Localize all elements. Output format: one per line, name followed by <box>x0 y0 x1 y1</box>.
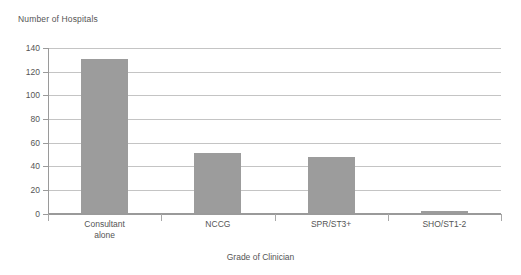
x-axis-category-label: Consultant alone <box>48 219 161 240</box>
bar <box>194 153 241 213</box>
x-axis-category-label: SPR/ST3+ <box>275 219 388 230</box>
y-axis-tick-label: 20 <box>31 185 40 195</box>
x-axis-category-label: NCCG <box>161 219 274 230</box>
y-axis-tick-label: 80 <box>31 114 40 124</box>
y-axis-tick-label: 60 <box>31 138 40 148</box>
y-axis-tick <box>43 143 48 144</box>
plot-area <box>48 48 501 214</box>
y-axis-tick-label: 40 <box>31 161 40 171</box>
y-axis-tick <box>43 190 48 191</box>
gridline <box>48 48 501 49</box>
y-axis-tick <box>43 166 48 167</box>
y-axis-tick <box>43 72 48 73</box>
bar <box>81 59 128 214</box>
y-axis-tick-label: 120 <box>26 67 40 77</box>
y-axis-tick-label: 0 <box>35 209 40 219</box>
bar-chart: Number of Hospitals 020406080100120140 C… <box>0 0 521 275</box>
y-axis-tick <box>43 119 48 120</box>
x-axis-title: Grade of Clinician <box>0 252 521 262</box>
y-axis-tick-label: 140 <box>26 43 40 53</box>
bar <box>308 157 355 214</box>
x-axis-separator-tick <box>501 214 502 221</box>
y-axis-tick <box>43 48 48 49</box>
y-axis-tick-label: 100 <box>26 90 40 100</box>
y-axis-line <box>48 48 49 214</box>
x-axis-category-label: SHO/ST1-2 <box>388 219 501 230</box>
y-axis-tick <box>43 95 48 96</box>
y-axis-title: Number of Hospitals <box>18 14 98 24</box>
